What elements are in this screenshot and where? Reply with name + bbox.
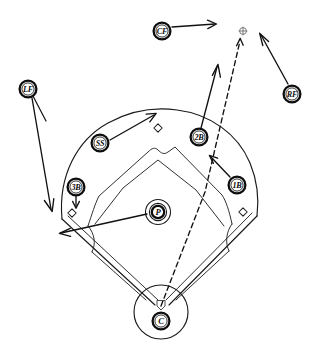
- third-base-path: [92, 252, 146, 300]
- lf-movement-arrow: [32, 98, 51, 209]
- player-token-1b[interactable]: 1B: [229, 177, 246, 194]
- left-foul-line: [62, 219, 155, 305]
- ball-marker-crosshair: [239, 27, 248, 36]
- hit-trajectory-arrowhead: [237, 38, 244, 45]
- lf-label: LF: [22, 85, 34, 94]
- player-token-lf[interactable]: LF: [20, 81, 37, 98]
- second-base: [154, 124, 162, 132]
- cf-label: CF: [157, 27, 168, 36]
- right-foul-line: [169, 216, 257, 305]
- rf-label: RF: [286, 90, 298, 99]
- second-baseman-movement-arrow: [201, 67, 217, 128]
- player-token-c[interactable]: C: [153, 313, 170, 330]
- third-base-dirt-cutout: [88, 226, 94, 252]
- player-token-2b[interactable]: 2B: [191, 129, 208, 146]
- third-base: [68, 209, 76, 217]
- right-foul-line-inner: [166, 213, 252, 300]
- first-base: [239, 208, 247, 216]
- first-baseman-label: 1B: [232, 181, 242, 190]
- ball-trajectory-group: [161, 27, 247, 306]
- player-token-rf[interactable]: RF: [284, 86, 301, 103]
- player-token-ss[interactable]: SS: [92, 135, 109, 152]
- player-tokens-group: LF CF RF SS 2B 3B: [20, 23, 301, 330]
- third-baseman-label: 3B: [70, 183, 81, 192]
- second-baseman-label: 2B: [193, 133, 204, 142]
- pitcher-movement-arrow: [61, 214, 147, 233]
- catcher-label: C: [158, 316, 164, 326]
- ss-movement-arrowhead: [146, 113, 156, 121]
- player-token-cf[interactable]: CF: [154, 23, 171, 40]
- first-baseman-movement-arrow: [211, 157, 230, 177]
- baseball-field-diagram: LF CF RF SS 2B 3B: [0, 0, 321, 348]
- cf-movement-arrow: [172, 24, 215, 27]
- ss-label: SS: [96, 139, 105, 148]
- player-token-3b[interactable]: 3B: [68, 179, 85, 196]
- first-base-path: [176, 251, 229, 300]
- rf-movement-arrow: [261, 35, 288, 84]
- player-token-p[interactable]: P: [152, 206, 164, 218]
